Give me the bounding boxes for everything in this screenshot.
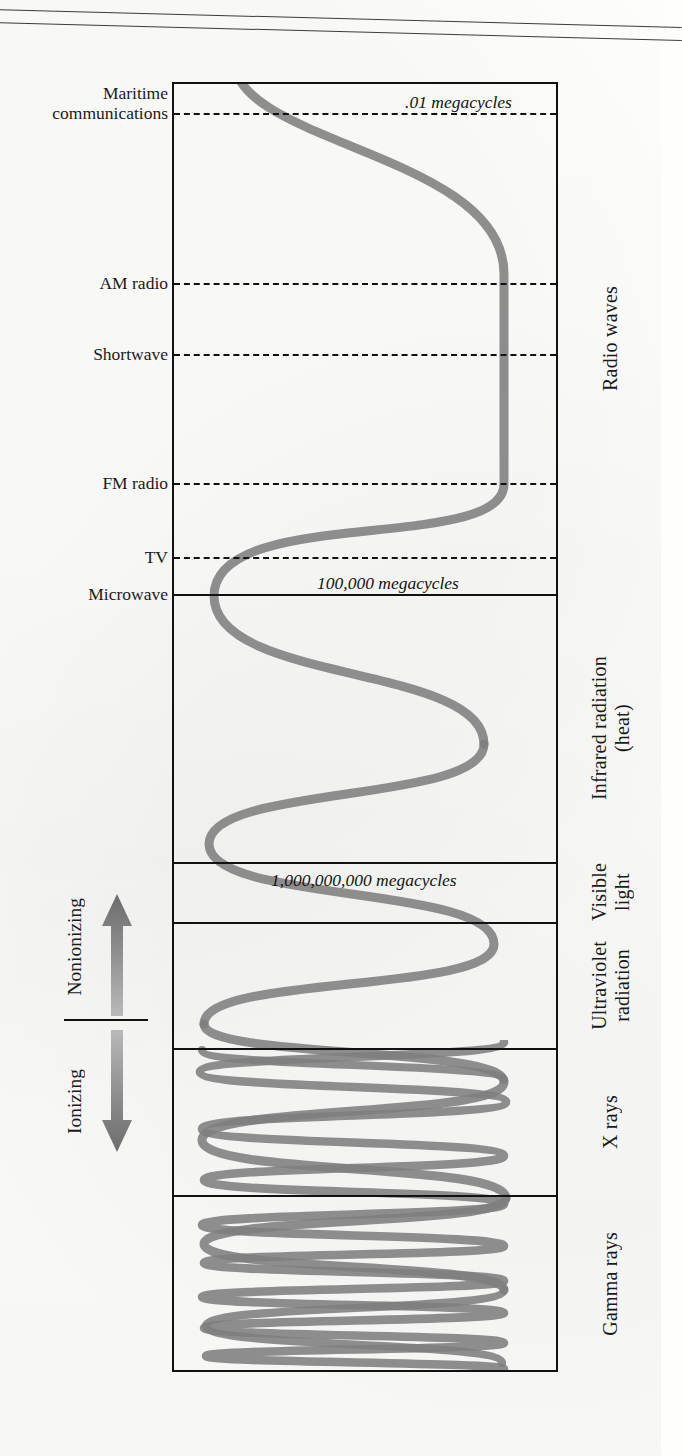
ionizing-label: Ionizing xyxy=(62,1026,88,1176)
marker-line-tv xyxy=(174,557,556,559)
divider-ultraviolet-xrays xyxy=(174,1048,556,1050)
ionization-annotation: Nonionizing Ionizing xyxy=(62,868,170,1180)
spectrum-frame: .01 megacycles 100,000 megacycles 1,000,… xyxy=(172,82,558,1372)
marker-line-fm-radio xyxy=(174,483,556,485)
left-label-microwave: Microwave xyxy=(88,584,168,604)
band-label-radio-waves: Radio waves xyxy=(560,82,661,594)
left-label-fm-radio: FM radio xyxy=(102,473,168,493)
arrow-down-icon xyxy=(100,1028,134,1154)
band-name-column: Radio waves Infrared radiation (heat) Vi… xyxy=(560,0,661,1456)
left-label-maritime-communications: Maritime communications xyxy=(52,83,168,123)
band-label-infrared-radiation: Infrared radiation (heat) xyxy=(560,594,661,862)
divider-visible-ultraviolet xyxy=(174,922,556,924)
gamma-wave-dense xyxy=(174,1040,556,1370)
left-label-tv: TV xyxy=(145,547,168,567)
band-label-ultraviolet-radiation: Ultraviolet radiation xyxy=(560,922,661,1048)
left-label-column: Maritime communications AM radio Shortwa… xyxy=(0,0,168,1456)
marker-line-maritime-communications xyxy=(174,113,556,115)
nonionizing-label: Nonionizing xyxy=(62,872,88,1022)
divider-xrays-gamma xyxy=(174,1195,556,1197)
band-label-gamma-rays: Gamma rays xyxy=(560,1195,661,1372)
marker-line-shortwave xyxy=(174,354,556,356)
frequency-callout-1000000000-megacycles: 1,000,000,000 megacycles xyxy=(271,870,457,891)
divider-radio-infrared xyxy=(174,594,556,596)
band-label-x-rays: X rays xyxy=(560,1048,661,1195)
divider-infrared-visible xyxy=(174,862,556,864)
left-label-shortwave: Shortwave xyxy=(93,344,168,364)
frequency-callout-100000-megacycles: 100,000 megacycles xyxy=(317,573,459,594)
marker-line-am-radio xyxy=(174,283,556,285)
left-label-am-radio: AM radio xyxy=(99,273,168,293)
frequency-callout-01-megacycles: .01 megacycles xyxy=(405,92,512,113)
arrow-up-icon xyxy=(100,892,134,1018)
